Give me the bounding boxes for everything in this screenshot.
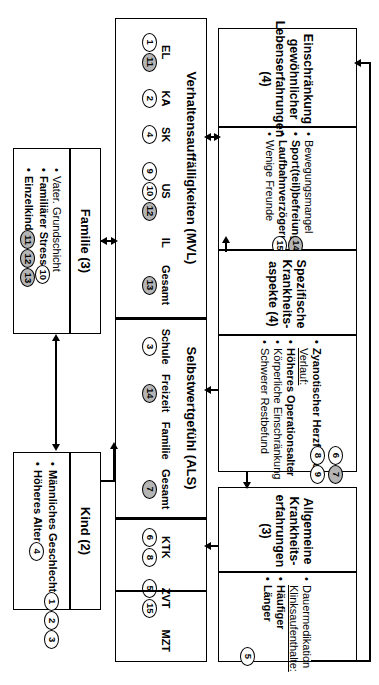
mark-oval: 9 [310,465,325,484]
mark-oval: 10 [142,182,157,201]
mark-oval: 4 [142,125,157,144]
mark-oval: 6 [142,528,157,547]
connector-allgemeine-wrap-v1 [311,660,371,662]
tests-column-zvt: ZVT 5 15 [142,579,172,618]
box-familie-header: Familie (3) [73,152,97,330]
box-allgemeine-divider [219,571,356,573]
list-item: •Laufbahnverzögerung [276,132,289,248]
list-item: •Körperliche Einschränkung [271,340,284,470]
column-values: 6 8 [142,528,157,567]
mark-oval: 13 [142,276,157,295]
mark-oval: 13 [20,268,35,287]
column-values: 3 [142,337,157,356]
diagram-canvas: Einschränkung gewöhnlicher Lebenserfahru… [0,0,379,685]
box-kind-header: Kind (2) [73,456,97,606]
column-label: US [160,183,172,198]
mark-oval: 9 [142,162,157,181]
list-item: •Schwerer Restbefund [258,340,271,470]
column-label: Schule [160,329,172,365]
column-label: Freizeit [160,374,172,413]
box-familie-divider [69,149,71,333]
mvl-column-ka: KA 2 [142,89,172,108]
column-label: Gesamt [160,265,172,305]
strip-divider-3 [116,590,206,592]
mark-oval: 2 [44,611,59,630]
arrowhead-right [243,482,251,489]
column-values: 13 [142,276,157,295]
mark-oval: 15 [142,599,157,618]
mvl-column-us: US 9 10 12 [142,162,172,221]
tests-column-ktk: KTK 6 8 [142,528,172,567]
box-einschraenkung-header: Einschränkung gewöhnlicher Lebenserfahru… [222,32,353,126]
tests-column-mzt: MZT [157,629,172,652]
mark-group-allgemeine: 5 [239,647,257,666]
mark-oval: 6 [328,446,343,465]
box-spezifische-header: Spezifische Krankheits- aspekte (4) [222,254,353,334]
strip-divider-2 [116,518,206,520]
box-kind-divider [69,453,71,609]
list-item: •Familiärer Stress10 [35,168,50,332]
arrowhead-down [354,59,361,67]
mark-oval: 7 [328,465,343,484]
list-item: •Sport(teil)befreiung [289,132,302,248]
column-label: KTK [160,536,172,559]
arrowhead-down [204,133,211,141]
column-label: Familie [160,422,172,460]
list-item: •Einzelkind111213 [20,168,35,332]
mark-oval: 3 [44,630,59,649]
box-allgemeine-items: •Dauermedikation Klinksaufenthalte: •Häu… [261,577,313,665]
mvl-column-gesamt: Gesamt 13 [142,265,172,305]
box-mvl-header: Verhaltensauffälligkeiten (MVL) [179,22,203,314]
list-item: •Häufiger [274,577,287,665]
mark-oval: 5 [240,647,255,666]
connector-kind-familie [55,338,57,448]
arrowhead-down [100,237,107,245]
column-values: 1 11 [142,33,157,72]
connector-allgemeine-wrap-stub [311,660,313,662]
column-values: 9 10 12 [142,162,157,221]
mark-oval: 12 [20,249,35,268]
mark-oval: 8 [310,446,325,465]
arrowhead-up [214,133,221,141]
mark-oval: 2 [142,89,157,108]
mvl-column-el: EL 1 11 [142,33,172,72]
column-label: IL [160,238,172,248]
box-spezifische-divider [219,334,356,336]
diagram-stage: Einschränkung gewöhnlicher Lebenserfahru… [0,0,379,685]
als-column-schule: Schule 3 [142,329,172,365]
mark-oval: 10 [35,265,50,284]
mark-group-spezifische-b: 89 [309,446,327,484]
box-einschraenkung-divider [219,126,356,128]
als-column-gesamt: Gesamt 7 [142,469,172,509]
list-item: •Wenige Freunde [263,132,276,248]
arrowhead-left [110,442,118,449]
box-mvl-columns: EL 1 11 KA 2 SK 4 US 9 10 12 [120,24,172,314]
mark-oval: 4 [29,542,44,561]
column-values: 5 15 [142,579,157,618]
box-familie-items: •Vater. Grundschicht •Familiärer Stress1… [20,168,63,332]
column-label: EL [160,45,172,59]
arrowhead-down [204,542,211,550]
mark-oval: 7 [142,480,157,499]
box-als-columns: Schule 3 Freizeit 14 Familie Gesamt 7 [120,324,172,514]
column-label: KA [160,90,172,106]
connector-allgemeine-wrap-h [369,62,371,662]
arrowhead-down [204,386,211,394]
mark-oval: 11 [142,53,157,72]
strip-divider-1 [116,318,206,320]
mark-oval: 11 [20,230,35,249]
column-label: SK [160,127,172,142]
mark-oval: 3 [142,337,157,356]
box-kind-items: •Männliches Geschlecht123 •Höheres Alter… [29,462,59,608]
arrowhead-left [52,334,60,341]
column-values: 7 [142,480,157,499]
mark-oval: 8 [142,548,157,567]
list-item: •Höheres Operationsalter [284,340,297,470]
arrowhead-up [111,237,118,245]
mark-oval: 14 [142,384,157,403]
column-label: Gesamt [160,469,172,509]
list-item: •Vater. Grundschicht [50,168,63,332]
mark-group-spezifische-a: 67 [327,446,345,484]
column-values: 2 [142,89,157,108]
arrowhead-right [52,444,60,451]
